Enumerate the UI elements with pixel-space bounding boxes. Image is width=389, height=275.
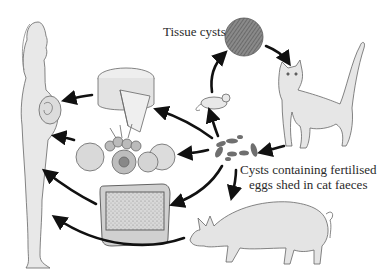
arrow-cat-to-faeces bbox=[262, 146, 284, 152]
faecal-cysts-label: Cysts containing fertilised eggs shed in… bbox=[240, 162, 376, 192]
arrow-faeces-to-fruit bbox=[182, 150, 208, 154]
faecal-cysts-illustration bbox=[213, 135, 258, 161]
arrow-faeces-to-cheese bbox=[158, 110, 212, 138]
arrow-faeces-to-litter bbox=[174, 166, 222, 204]
pregnant-woman-illustration bbox=[21, 22, 61, 268]
pig-illustration bbox=[190, 202, 333, 264]
arrow-mouse-to-cyst bbox=[212, 54, 225, 92]
mouse-illustration bbox=[196, 94, 230, 111]
faecal-cysts-label-line1: Cysts containing fertilised bbox=[240, 162, 376, 177]
tissue-cyst-illustration bbox=[225, 18, 263, 56]
arrow-cyst-to-cat bbox=[266, 46, 288, 62]
arrow-fruit-to-woman bbox=[56, 136, 74, 140]
arrow-faeces-to-pig bbox=[232, 170, 236, 196]
arrow-faeces-to-mouse bbox=[210, 112, 218, 136]
cat-illustration bbox=[279, 42, 365, 148]
tissue-cysts-label: Tissue cysts bbox=[163, 24, 226, 39]
toxoplasma-lifecycle-diagram: Tissue cysts Cysts containing fertilised… bbox=[0, 0, 389, 275]
diagram-artwork bbox=[0, 0, 389, 275]
cheese-illustration bbox=[98, 68, 154, 132]
faecal-cysts-label-line2: eggs shed in cat faeces bbox=[240, 177, 376, 192]
fruit-illustration bbox=[76, 124, 175, 174]
arrow-litter-to-woman bbox=[46, 172, 96, 204]
litter-tray-illustration bbox=[100, 184, 170, 246]
arrow-cheese-to-woman bbox=[66, 95, 92, 100]
